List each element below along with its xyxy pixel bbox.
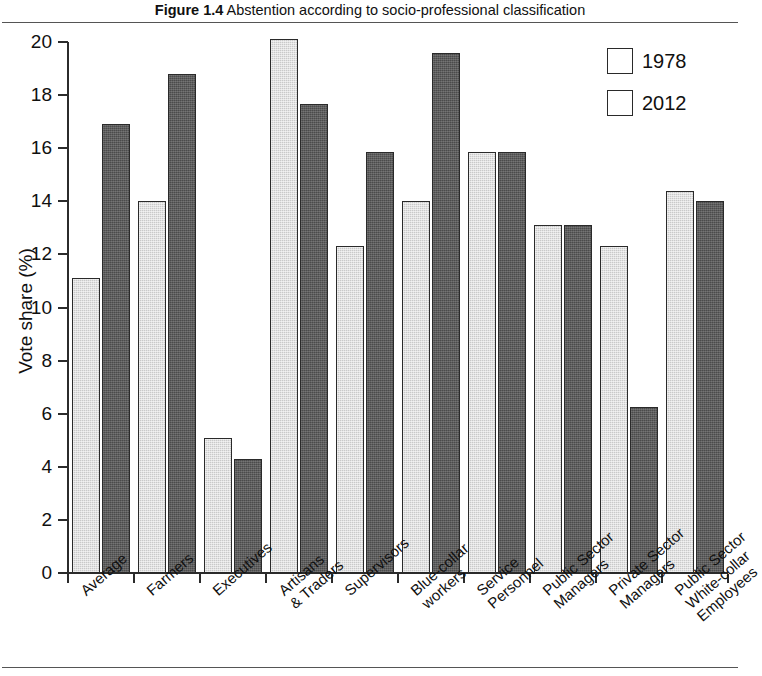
x-tick-6 [463,574,465,583]
bar-2012-group-5 [432,53,460,573]
legend-swatch-1978 [607,48,633,74]
x-tick-8 [595,574,597,583]
y-tick-label-20: 20 [6,32,52,51]
x-tick-7 [529,574,531,583]
x-tick-0 [67,574,69,583]
bar-2012-group-1 [168,74,196,573]
x-tick-5 [397,574,399,583]
legend-swatch-2012 [607,90,633,116]
y-tick-10 [58,307,68,309]
legend-item-2012: 2012 [607,86,727,120]
bar-1978-group-6 [468,152,496,573]
y-tick-label-16: 16 [6,138,52,157]
y-tick-2 [58,519,68,521]
legend-label-1978: 1978 [642,51,687,71]
y-tick-8 [58,360,68,362]
y-tick-16 [58,147,68,149]
y-tick-label-14: 14 [6,191,52,210]
x-tick-4 [331,574,333,583]
bar-2012-group-4 [366,152,394,573]
y-tick-4 [58,466,68,468]
y-tick-label-2: 2 [6,510,52,529]
y-tick-20 [58,41,68,43]
bar-2012-group-7 [564,225,592,573]
bar-1978-group-5 [402,201,430,573]
bar-2012-group-2 [234,459,262,573]
x-tick-9 [661,574,663,583]
bar-2012-group-0 [102,124,130,573]
y-tick-label-18: 18 [6,85,52,104]
y-tick-6 [58,413,68,415]
y-tick-label-0: 0 [6,563,52,582]
bar-2012-group-8 [630,407,658,573]
bar-1978-group-0 [72,278,100,573]
y-tick-label-12: 12 [6,244,52,263]
bar-1978-group-3 [270,39,298,573]
y-tick-12 [58,253,68,255]
x-tick-1 [133,574,135,583]
x-tick-3 [265,574,267,583]
y-tick-18 [58,94,68,96]
y-tick-label-10: 10 [6,298,52,317]
bar-2012-group-6 [498,152,526,573]
bar-2012-group-3 [300,104,328,573]
y-tick-label-4: 4 [6,457,52,476]
bar-1978-group-8 [600,246,628,573]
bar-1978-group-2 [204,438,232,573]
bar-1978-group-4 [336,246,364,573]
y-tick-14 [58,200,68,202]
bar-2012-group-9 [696,201,724,573]
y-tick-label-6: 6 [6,404,52,423]
bar-1978-group-9 [666,191,694,573]
legend: 1978 2012 [607,44,727,128]
x-tick-10 [727,574,729,583]
bar-1978-group-1 [138,201,166,573]
bar-1978-group-7 [534,225,562,573]
legend-label-2012: 2012 [642,93,687,113]
legend-item-1978: 1978 [607,44,727,78]
y-tick-label-8: 8 [6,351,52,370]
x-tick-2 [199,574,201,583]
